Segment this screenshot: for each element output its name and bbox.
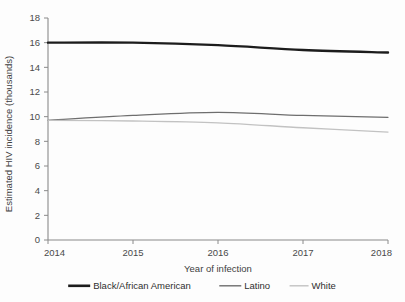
x-tick-label: 2015 bbox=[122, 247, 143, 258]
series-line bbox=[48, 112, 388, 120]
series-line bbox=[48, 42, 388, 52]
y-tick-label: 18 bbox=[29, 12, 40, 23]
y-tick-label: 10 bbox=[29, 111, 40, 122]
hiv-incidence-line-chart: 024681012141618 20142015201620172018 Yea… bbox=[0, 0, 405, 302]
x-axis-group: 20142015201620172018 bbox=[44, 240, 392, 258]
series-line bbox=[48, 120, 388, 132]
y-tick-label: 16 bbox=[29, 37, 40, 48]
legend-item-label: Black/African American bbox=[93, 280, 191, 291]
y-axis-ticks bbox=[44, 18, 48, 240]
y-tick-label: 12 bbox=[29, 86, 40, 97]
legend-item-label: White bbox=[312, 280, 336, 291]
y-tick-label: 2 bbox=[35, 210, 40, 221]
x-tick-label: 2016 bbox=[207, 247, 228, 258]
y-tick-label: 4 bbox=[35, 185, 40, 196]
y-tick-label: 6 bbox=[35, 160, 40, 171]
x-axis-tick-labels: 20142015201620172018 bbox=[44, 247, 392, 258]
series-lines-group bbox=[48, 42, 388, 132]
y-axis-tick-labels: 024681012141618 bbox=[29, 12, 40, 245]
x-tick-label: 2014 bbox=[44, 247, 65, 258]
y-tick-label: 14 bbox=[29, 62, 40, 73]
y-tick-label: 0 bbox=[35, 234, 40, 245]
x-tick-label: 2018 bbox=[371, 247, 392, 258]
x-tick-label: 2017 bbox=[292, 247, 313, 258]
y-axis-title: Estimated HIV incidence (thousands) bbox=[3, 56, 14, 212]
chart-legend: Black/African AmericanLatinoWhite bbox=[68, 280, 336, 291]
chart-canvas: 024681012141618 20142015201620172018 Yea… bbox=[0, 0, 405, 302]
y-tick-label: 8 bbox=[35, 136, 40, 147]
x-axis-title: Year of infection bbox=[184, 263, 252, 274]
y-axis-group: 024681012141618 bbox=[29, 12, 48, 245]
x-axis-ticks bbox=[48, 240, 388, 244]
legend-item-label: Latino bbox=[244, 280, 270, 291]
